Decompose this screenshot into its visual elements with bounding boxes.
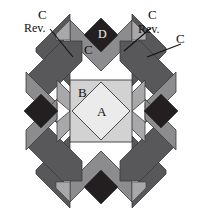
label-top-left-c: C (38, 8, 47, 21)
figure-canvas: C Rev. C Rev. C D C B A (0, 0, 202, 222)
label-far-right-c: C (176, 32, 185, 45)
label-patch-a: A (97, 105, 106, 118)
label-patch-d: D (98, 28, 107, 40)
label-patch-b: B (78, 86, 87, 99)
label-top-right-c: C (148, 8, 157, 21)
label-patch-c-center: C (84, 43, 93, 56)
label-top-left-rev: Rev. (24, 22, 46, 34)
label-top-right-rev: Rev. (138, 23, 160, 35)
